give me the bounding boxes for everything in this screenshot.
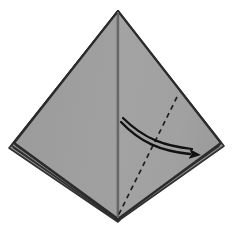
origami-diagram: Origami fold step diagram kite-shaped fo… xyxy=(0,0,237,234)
right-face xyxy=(118,11,221,219)
left-face xyxy=(14,11,118,219)
origami-figure-svg xyxy=(0,0,237,234)
